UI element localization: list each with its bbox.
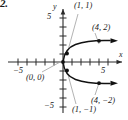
point-label-4-2: (4, 2) — [92, 23, 110, 32]
data-point-0-0 — [61, 60, 65, 64]
y-axis-arrowhead — [61, 9, 66, 15]
figure-container: 2. — [0, 0, 128, 120]
point-label-1-1: (1, 1) — [74, 1, 92, 10]
y-axis-tick-label-5: 5 — [47, 12, 51, 21]
x-axis-tick-label-5: 5 — [101, 66, 105, 75]
parabola-lower-arrowhead — [111, 81, 119, 86]
y-axis-tick-label-minus-5: −5 — [44, 101, 54, 110]
point-label-1-minus-1: (1, −1) — [72, 105, 96, 114]
x-axis-tick-label-minus-5: −5 — [13, 66, 23, 75]
data-point-1-m1 — [65, 69, 69, 73]
data-point-1-1 — [65, 52, 69, 56]
x-axis-label: x — [119, 51, 123, 59]
y-axis-label: y — [53, 3, 57, 11]
x-axis-arrowhead — [117, 60, 123, 65]
parabola-upper-arrowhead — [111, 38, 119, 43]
data-point-4-m2 — [97, 81, 101, 85]
data-point-4-2 — [97, 39, 101, 43]
point-label-0-0: (0, 0) — [26, 73, 44, 82]
